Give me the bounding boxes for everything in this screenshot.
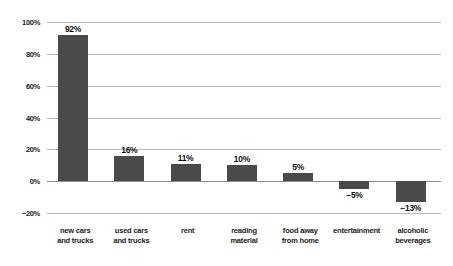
bar[interactable] [114, 156, 144, 181]
x-axis-category-labels: new carsand trucksused carsand trucksren… [47, 226, 441, 262]
bar-slot: 10% [216, 22, 272, 213]
x-axis-tick-label: food awayfrom home [272, 226, 328, 246]
x-axis-tick-label-line: alcoholic [385, 226, 441, 236]
bar[interactable] [339, 181, 369, 189]
x-axis-tick-label-line: material [216, 236, 272, 246]
bars-group: 92%16%11%10%5%−5%−13% [47, 22, 441, 213]
bar-slot: 11% [160, 22, 216, 213]
bar[interactable] [227, 165, 257, 181]
bar-slot: −5% [328, 22, 384, 213]
y-axis-tick-label: −20% [22, 209, 40, 218]
x-axis-tick-label-line: beverages [385, 236, 441, 246]
bar-value-label: 11% [171, 153, 201, 163]
y-axis-tick-label: 80% [26, 49, 40, 58]
bar-value-label: −13% [396, 203, 426, 213]
x-axis-tick-label-line: entertainment [328, 226, 384, 236]
bar-slot: −13% [385, 22, 441, 213]
y-axis-tick-label: 20% [26, 145, 40, 154]
bar-value-label: 5% [283, 162, 313, 172]
y-axis-tick-label: 100% [22, 18, 40, 27]
x-axis-tick-label: readingmaterial [216, 226, 272, 246]
y-axis-tick-label: 60% [26, 81, 40, 90]
bar-value-label: −5% [339, 190, 369, 200]
bar-value-label: 16% [114, 145, 144, 155]
bar[interactable] [283, 173, 313, 181]
x-axis-tick-label-line: used cars [103, 226, 159, 236]
x-axis-tick-label-line: and trucks [47, 236, 103, 246]
bar-value-label: 92% [58, 24, 88, 34]
x-axis-tick-label-line: new cars [47, 226, 103, 236]
x-axis-tick-label-line: rent [160, 226, 216, 236]
bar-value-label: 10% [227, 154, 257, 164]
bar-slot: 16% [103, 22, 159, 213]
x-axis-tick-label: used carsand trucks [103, 226, 159, 246]
x-axis-tick-label: rent [160, 226, 216, 236]
x-axis-tick-label-line: reading [216, 226, 272, 236]
x-axis-tick-label-line: from home [272, 236, 328, 246]
x-axis-tick-label-line: and trucks [103, 236, 159, 246]
x-axis-tick-label-line: food away [272, 226, 328, 236]
x-axis-tick-label: entertainment [328, 226, 384, 236]
bar[interactable] [58, 35, 88, 181]
x-axis-tick-label: new carsand trucks [47, 226, 103, 246]
bar-chart: 100%80%60%40%20%0%−20% 92%16%11%10%5%−5%… [0, 0, 453, 266]
bar[interactable] [171, 164, 201, 182]
x-axis-tick-label: alcoholicbeverages [385, 226, 441, 246]
y-axis-tick-label: 0% [30, 177, 40, 186]
y-axis: 100%80%60%40%20%0%−20% [0, 22, 40, 213]
bar[interactable] [396, 181, 426, 202]
bar-slot: 92% [47, 22, 103, 213]
y-axis-tick-label: 40% [26, 113, 40, 122]
gridline [47, 213, 441, 214]
bar-slot: 5% [272, 22, 328, 213]
